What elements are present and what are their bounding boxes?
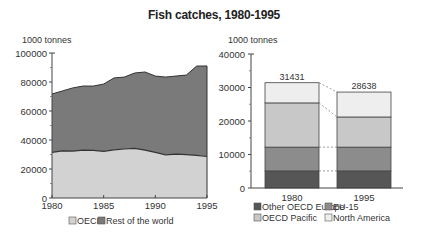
y-tick-label: 20000 — [219, 116, 245, 127]
legend-swatch-icon — [325, 203, 332, 210]
connector-line — [319, 103, 337, 117]
bar-seg-oecd-pacific-1980 — [265, 103, 319, 147]
bar-total-label: 31431 — [279, 72, 304, 82]
legend-swatch-icon — [254, 214, 261, 221]
bar-seg-north-america-1995 — [337, 92, 391, 117]
legend-label: OECD Pacific — [262, 213, 318, 223]
y-tick-label: 40000 — [219, 49, 245, 60]
y-axis-unit-label: 1000 tonnes — [228, 35, 278, 45]
legend-right: Other OECD EuropeEU-15OECD PacificNorth … — [254, 202, 390, 223]
stacked-bar-chart-oecd-regions: 31431286380100002000030000400001000 tonn… — [0, 0, 428, 238]
y-tick-label: 30000 — [219, 82, 245, 93]
bar-total-label: 28638 — [351, 81, 376, 91]
legend-label: North America — [333, 213, 390, 223]
bar-seg-oecd-pacific-1995 — [337, 117, 391, 147]
y-tick-label: 10000 — [219, 149, 245, 160]
bar-seg-eu15-1980 — [265, 147, 319, 171]
connector-line — [319, 83, 337, 92]
bar-seg-north-america-1980 — [265, 83, 319, 103]
bar-seg-other-oecd-europe-1980 — [265, 171, 319, 188]
bar-seg-other-oecd-europe-1995 — [337, 171, 391, 188]
legend-swatch-icon — [254, 203, 261, 210]
legend-label: EU-15 — [333, 202, 359, 212]
legend-swatch-icon — [325, 214, 332, 221]
bar-seg-eu15-1995 — [337, 147, 391, 171]
y-tick-label: 0 — [240, 183, 245, 194]
